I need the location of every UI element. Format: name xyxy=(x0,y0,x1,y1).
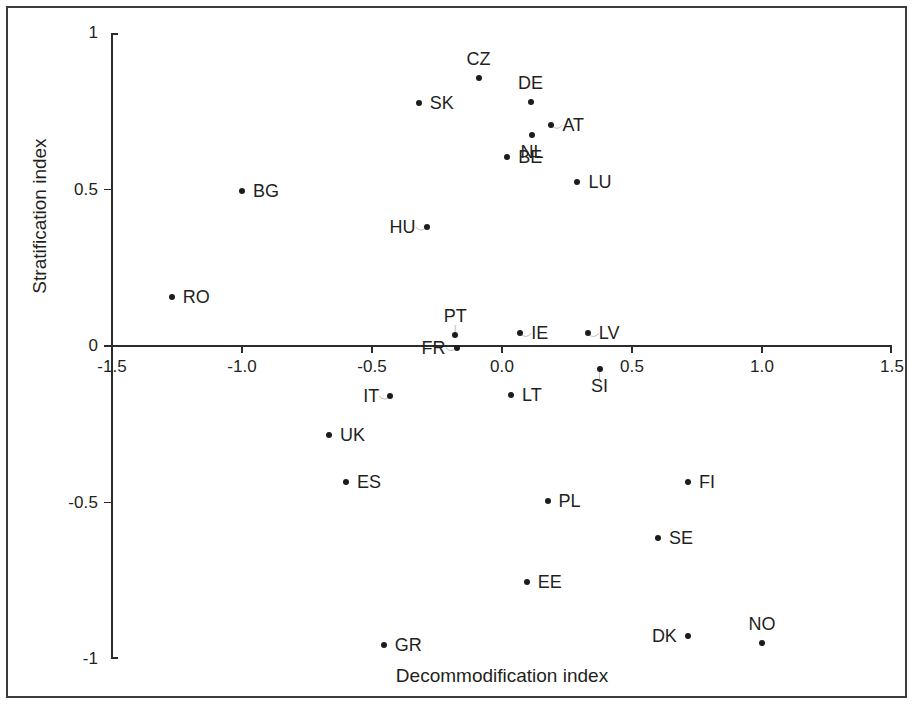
data-point xyxy=(343,479,349,485)
data-point xyxy=(454,345,460,351)
x-axis-tick xyxy=(501,346,503,353)
data-point xyxy=(759,640,765,646)
data-point xyxy=(545,498,551,504)
data-point-label: GR xyxy=(395,634,422,655)
data-point xyxy=(517,330,523,336)
x-axis-tick-label: -1.5 xyxy=(97,357,127,377)
data-point xyxy=(528,99,534,105)
data-point-label: DE xyxy=(518,73,543,94)
data-point-label: AT xyxy=(562,115,584,136)
x-axis-tick xyxy=(761,346,763,353)
data-point-label: BG xyxy=(253,181,279,202)
data-point xyxy=(416,100,422,106)
scatter-plot-figure: -1.5-1.0-0.50.00.51.01.510.50-0.5-1CZDEA… xyxy=(0,0,921,728)
x-axis-tick xyxy=(241,346,243,353)
data-point-label: EE xyxy=(538,572,562,593)
data-point xyxy=(508,392,514,398)
x-axis-tick-label: -1.0 xyxy=(227,357,257,377)
data-point xyxy=(239,188,245,194)
x-axis-tick xyxy=(631,346,633,353)
x-axis-title: Decommodification index xyxy=(396,665,608,687)
y-axis-tick-label: 0 xyxy=(0,336,98,356)
data-point xyxy=(524,579,530,585)
data-point-label: PL xyxy=(559,490,581,511)
data-point-label: RO xyxy=(183,287,210,308)
y-axis-tick-label: 1 xyxy=(0,23,98,43)
data-point-label: LU xyxy=(588,171,611,192)
y-axis-tick xyxy=(104,502,111,504)
data-point-label: FR xyxy=(422,337,446,358)
data-point xyxy=(574,179,580,185)
x-axis-tick-label: -0.5 xyxy=(357,357,387,377)
data-point-label: LT xyxy=(522,384,542,405)
data-point-label: HU xyxy=(390,217,416,238)
leader-lines xyxy=(0,0,921,728)
data-point xyxy=(424,224,430,230)
data-point xyxy=(381,642,387,648)
data-point xyxy=(504,154,510,160)
y-axis-bottom-cap xyxy=(111,657,118,659)
y-axis-title: Stratification index xyxy=(29,138,51,293)
x-axis-right-cap xyxy=(890,346,892,353)
data-point-label: SE xyxy=(669,528,693,549)
data-point xyxy=(685,479,691,485)
x-axis-tick xyxy=(371,346,373,353)
x-axis-tick-label: 1.5 xyxy=(880,357,904,377)
data-point xyxy=(585,330,591,336)
data-point-label: FI xyxy=(699,472,715,493)
y-axis-tick-label: -1 xyxy=(0,649,98,669)
data-point-label: BE xyxy=(518,146,542,167)
y-axis-tick xyxy=(104,345,111,347)
data-point-label: IT xyxy=(363,386,379,407)
data-point-label: IE xyxy=(531,323,548,344)
data-point xyxy=(548,122,554,128)
data-point xyxy=(529,132,535,138)
plot-area: -1.5-1.0-0.50.00.51.01.510.50-0.5-1CZDEA… xyxy=(0,0,921,728)
data-point xyxy=(597,366,603,372)
data-point xyxy=(452,332,458,338)
data-point xyxy=(476,75,482,81)
data-point-label: NO xyxy=(749,614,776,635)
data-point-label: CZ xyxy=(467,49,491,70)
data-point-label: ES xyxy=(357,472,381,493)
x-axis-tick xyxy=(111,346,113,353)
y-axis-tick-label: -0.5 xyxy=(0,493,98,513)
data-point xyxy=(387,393,393,399)
data-point-label: SK xyxy=(430,93,454,114)
x-axis-tick-label: 1.0 xyxy=(750,357,774,377)
y-axis-tick xyxy=(104,189,111,191)
data-point xyxy=(326,432,332,438)
data-point xyxy=(169,294,175,300)
x-axis-tick-label: 0.5 xyxy=(620,357,644,377)
data-point xyxy=(655,535,661,541)
y-axis-top-cap xyxy=(111,33,118,35)
data-point-label: LV xyxy=(599,323,620,344)
data-point-label: PT xyxy=(444,306,467,327)
data-point-label: DK xyxy=(652,625,677,646)
data-point-label: SI xyxy=(591,376,608,397)
data-point-label: UK xyxy=(340,425,365,446)
data-point xyxy=(685,633,691,639)
x-axis-tick-label: 0.0 xyxy=(490,357,514,377)
